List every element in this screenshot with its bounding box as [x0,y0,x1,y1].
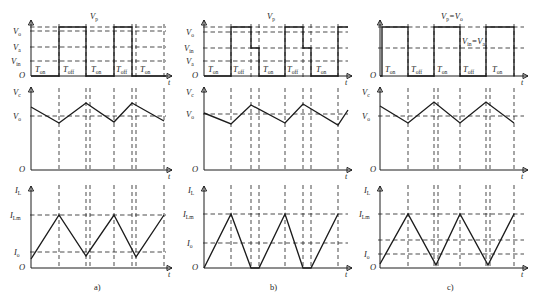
origin-label: O [370,164,376,174]
ytick-vo: Vo [186,27,194,38]
ytick-ilm: ILm [182,209,194,220]
panel-label-a: a) [94,282,101,292]
signal-label-il: IL [363,185,371,196]
axes-vc [380,87,528,170]
xaxis-label: t [168,270,171,279]
xaxis-label: t [345,78,348,87]
axes-vc [31,87,172,170]
xaxis-label: t [521,270,524,279]
panel-a-vp-plot: Vo Va Vin O t Vp Ton Toff Ton Toff Ton [11,11,172,87]
panel-c-il-plot: ILm Io O t IL [358,185,528,279]
ytick-io: Io [363,249,370,260]
panel-c-vc-plot: Vo O t Vc [362,87,528,181]
panel-a: Vo Va Vin O t Vp Ton Toff Ton Toff Ton [9,11,172,292]
interval-ton: Ton [208,64,219,75]
signal-label-vc: Vc [13,87,21,98]
panel-a-vc-plot: Vo O t Vc [13,87,172,181]
axes-vp [31,20,172,76]
interval-ton: Ton [140,64,151,75]
panel-b-il-plot: ILm Io O t IL [182,185,352,279]
signal-label-vp-eq-vo: Vp=Vo [441,11,463,22]
interval-toff: Toff [63,64,74,75]
signal-label-vp: Vp [267,11,275,22]
panel-label-c: c) [447,282,454,292]
interval-ton: Ton [91,64,102,75]
interval-toff: Toff [233,64,244,75]
interval-ton: Ton [316,64,327,75]
signal-label-vc: Vc [186,87,194,98]
ytick-io: Io [13,247,20,258]
ytick-vo: Vo [186,109,194,120]
panel-b-vc-plot: Vo O t Vc [186,87,352,181]
waveform-il [204,214,338,268]
xaxis-label: t [168,78,171,87]
ytick-vin: Vin [184,43,194,54]
origin-label: O [370,262,376,272]
waveform-vp [204,27,348,76]
annotation-vin-eq-va: Vin=Va [462,36,486,47]
ytick-va: Va [13,42,21,53]
xaxis-label: t [168,172,171,181]
panel-c-vp-plot: O t Vp=Vo Vin=Va Ton Toff Ton Toff Ton [370,11,528,87]
interval-toff: Toff [287,64,298,75]
origin-label: O [192,70,198,80]
signal-label-il: IL [187,185,195,196]
interval-toff: Toff [116,64,127,75]
ytick-vo: Vo [362,111,370,122]
ytick-ilm: ILm [358,209,370,220]
origin-label: O [19,70,25,80]
panel-c: O t Vp=Vo Vin=Va Ton Toff Ton Toff Ton V… [358,11,528,292]
figure-container: Vo Va Vin O t Vp Ton Toff Ton Toff Ton [0,0,546,297]
interval-ton: Ton [263,64,274,75]
ytick-io: Io [186,238,193,249]
signal-label-vp: Vp [90,11,98,22]
xaxis-label: t [345,270,348,279]
ytick-vo: Vo [13,111,21,122]
ytick-ilm: ILm [9,210,21,221]
axes-vc [204,87,352,170]
ytick-vin: Vin [11,56,21,67]
panel-b: Vo Vin Va O t Vp Ton Toff Ton Toff Ton [182,11,352,292]
origin-label: O [192,164,198,174]
origin-label: O [19,164,25,174]
origin-label: O [192,262,198,272]
signal-label-vc: Vc [362,87,370,98]
panel-label-b: b) [270,282,277,292]
waveform-vc [204,104,348,125]
ytick-vo: Vo [13,26,21,37]
panel-a-il-plot: ILm Io O t IL [9,185,172,279]
origin-label: O [370,70,376,80]
waveform-vc [31,103,164,123]
interval-ton: Ton [437,64,448,75]
interval-toff: Toff [463,64,474,75]
interval-ton: Ton [385,64,396,75]
ytick-va: Va [186,56,194,67]
waveform-vc [380,102,514,123]
interval-ton: Ton [492,64,503,75]
interval-toff: Toff [411,64,422,75]
xaxis-label: t [521,78,524,87]
interval-ton: Ton [35,64,46,75]
waveform-il [380,214,514,265]
signal-label-il: IL [14,185,22,196]
origin-label: O [19,262,25,272]
panel-b-vp-plot: Vo Vin Va O t Vp Ton Toff Ton Toff Ton [184,11,352,87]
waveform-figure: Vo Va Vin O t Vp Ton Toff Ton Toff Ton [0,0,546,297]
xaxis-label: t [521,172,524,181]
xaxis-label: t [345,172,348,181]
